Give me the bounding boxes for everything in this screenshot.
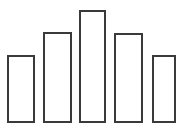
bar-chart bbox=[0, 0, 190, 134]
bar-2 bbox=[43, 32, 72, 123]
bar-1 bbox=[7, 55, 35, 123]
bar-3 bbox=[79, 10, 106, 123]
bar-5 bbox=[152, 55, 176, 123]
bar-4 bbox=[114, 33, 143, 123]
